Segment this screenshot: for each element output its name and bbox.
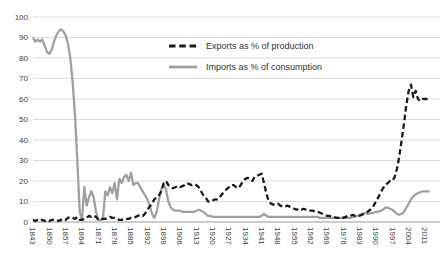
x-tick-label: 1892	[143, 227, 152, 245]
x-tick-label: 1857	[61, 227, 70, 245]
y-tick-label: 80	[19, 54, 28, 63]
y-tick-label: 10	[19, 197, 28, 206]
chart-panel: 0102030405060708090100 18431850185718641…	[0, 0, 447, 263]
x-tick-label: 1983	[355, 227, 364, 245]
x-tick-label: 1850	[45, 227, 54, 245]
x-tick-label: 1843	[28, 227, 37, 245]
x-tick-label: 1948	[273, 227, 282, 245]
x-tick-label: 1906	[175, 227, 184, 245]
y-tick-label: 20	[19, 177, 28, 186]
x-tick-label: 1955	[290, 227, 299, 245]
x-tick-label: 1920	[208, 227, 217, 245]
x-tick-label: 1976	[339, 227, 348, 245]
x-tick-label: 1990	[371, 227, 380, 245]
exports-series-line	[33, 85, 430, 221]
legend-item-imports: Imports as % of consumption	[168, 59, 322, 75]
y-tick-label: 50	[19, 115, 28, 124]
dashed-line-swatch-icon	[168, 43, 198, 49]
x-tick-label: 1899	[159, 227, 168, 245]
x-tick-label: 1864	[77, 227, 86, 245]
legend: Exports as % of production Imports as % …	[168, 38, 322, 75]
x-tick-label: 1962	[306, 227, 315, 245]
x-tick-label: 2011	[420, 227, 429, 245]
y-tick-label: 30	[19, 156, 28, 165]
x-tick-label: 1878	[110, 227, 119, 245]
x-tick-label: 1871	[94, 227, 103, 245]
y-tick-label: 100	[15, 13, 29, 22]
legend-item-exports: Exports as % of production	[168, 38, 322, 54]
x-tick-label: 1913	[192, 227, 201, 245]
y-tick-label: 70	[19, 74, 28, 83]
x-tick-label: 1885	[126, 227, 135, 245]
legend-label-exports: Exports as % of production	[206, 41, 314, 51]
x-tick-label: 2004	[404, 227, 413, 245]
y-tick-label: 90	[19, 33, 28, 42]
y-axis-tick-labels: 0102030405060708090100	[15, 13, 29, 227]
x-tick-label: 1941	[257, 227, 266, 245]
y-tick-label: 60	[19, 95, 28, 104]
x-axis-tick-labels: 1843185018571864187118781885189218991906…	[28, 227, 429, 245]
x-tick-label: 1927	[224, 227, 233, 245]
x-tick-label: 1934	[241, 227, 250, 245]
legend-label-imports: Imports as % of consumption	[206, 62, 322, 72]
x-tick-label: 1997	[388, 227, 397, 245]
solid-line-swatch-icon	[168, 64, 198, 70]
x-tick-label: 1969	[322, 227, 331, 245]
y-tick-label: 40	[19, 136, 28, 145]
y-tick-label: 0	[24, 218, 29, 227]
